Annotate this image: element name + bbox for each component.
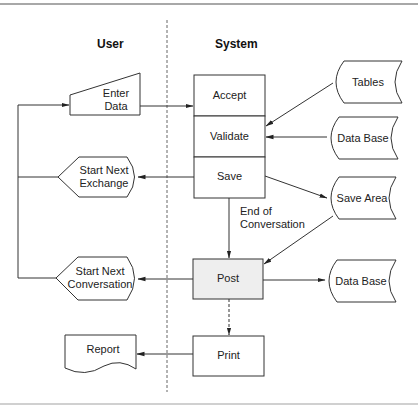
edge-tables-to-validate [266, 83, 333, 126]
post-label: Post [193, 272, 263, 285]
start-next-exchange-line1: Start Next [80, 164, 129, 176]
start-next-conversation-line1: Start Next [76, 265, 125, 277]
data-base-1-label: Data Base [331, 132, 395, 145]
validate-label: Validate [194, 130, 265, 143]
edge-save-to-save-area [265, 176, 327, 198]
start-next-conversation-line2: Conversation [68, 278, 133, 290]
enter-data-label: Enter Data [96, 87, 136, 113]
enter-data-line1: Enter [103, 87, 129, 99]
data-base-2-label: Data Base [329, 275, 393, 288]
lane-header-user: User [97, 37, 124, 51]
start-next-exchange-label: Start Next Exchange [72, 164, 136, 190]
save-area-label: Save Area [331, 192, 393, 205]
end-of-conversation-line1: End of [240, 205, 272, 217]
enter-data-line2: Data [104, 100, 127, 112]
start-next-conversation-label: Start Next Conversation [64, 265, 136, 291]
end-of-conversation-line2: Conversation [240, 218, 305, 230]
tables-label: Tables [338, 76, 398, 89]
report-label: Report [78, 343, 128, 356]
edge-loop-to-enter-data [18, 105, 69, 278]
lane-header-system: System [215, 37, 258, 51]
start-next-exchange-line2: Exchange [80, 177, 129, 189]
end-of-conversation-label: End of Conversation [240, 205, 305, 231]
accept-label: Accept [194, 89, 265, 102]
save-label: Save [194, 170, 265, 183]
print-label: Print [193, 349, 264, 362]
